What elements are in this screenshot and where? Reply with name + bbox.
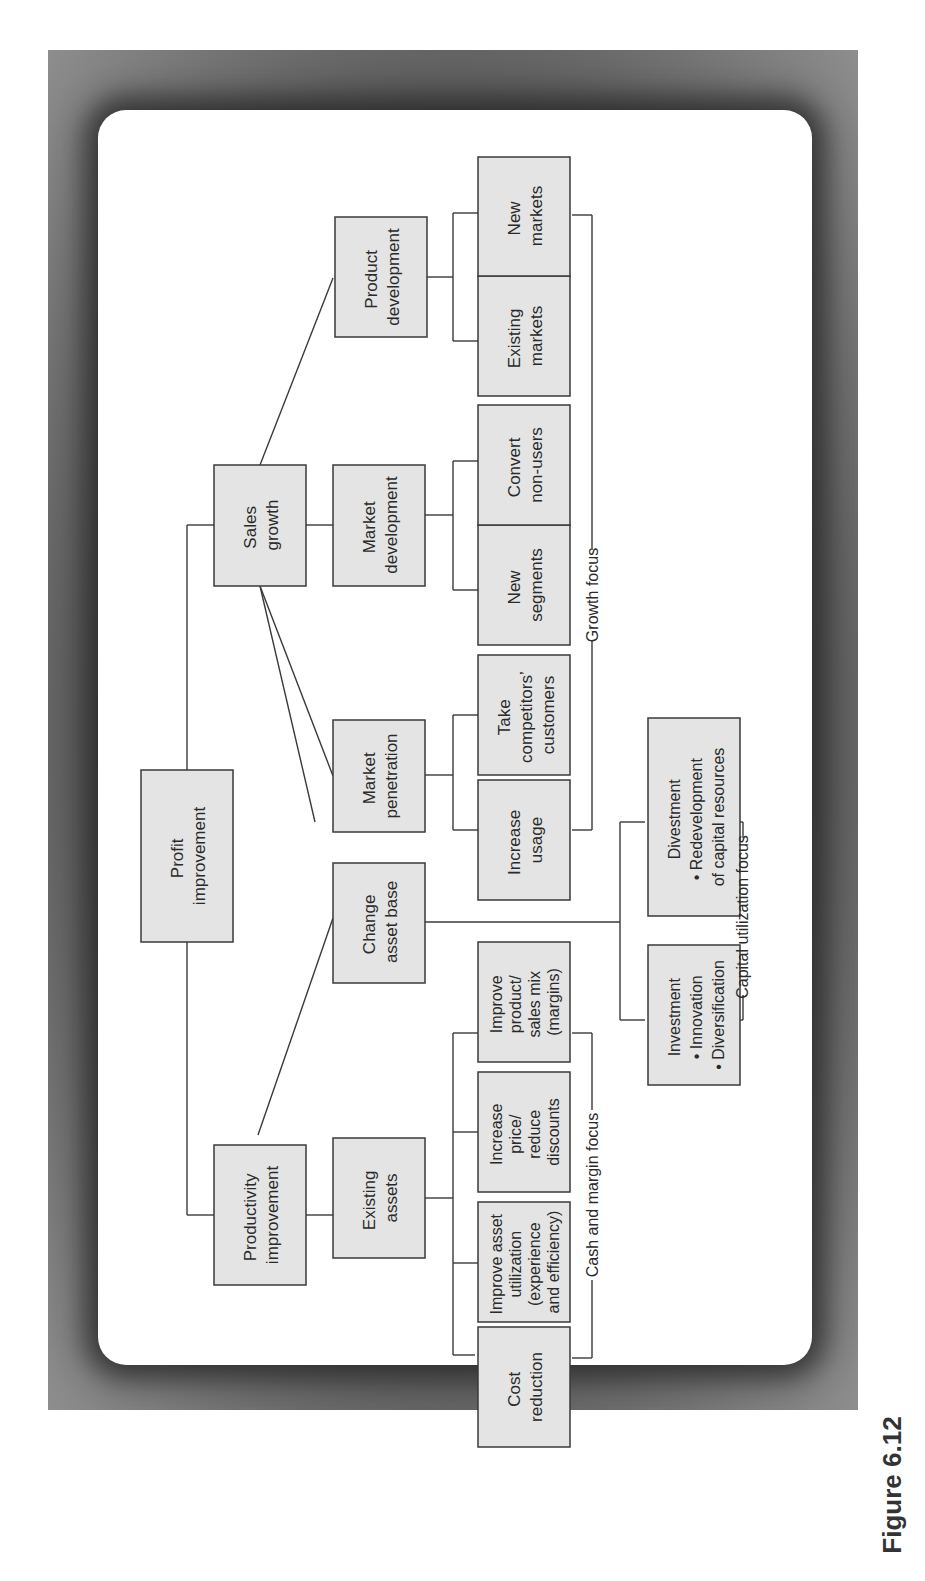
- node-cost-reduction: Cost reduction: [478, 1327, 570, 1447]
- node-label: reduce: [526, 1110, 543, 1159]
- svg-text:Investment • Innovation: Investment • Innovation • Diversificatio…: [666, 960, 727, 1070]
- node-label: Increase: [505, 810, 524, 875]
- figure-caption: Figure 6.12: [872, 1400, 912, 1570]
- node-label: product/: [507, 975, 524, 1033]
- node-productivity-improvement: Productivity improvement: [214, 1145, 306, 1285]
- node-label: discounts: [545, 1098, 562, 1166]
- node-label: customers: [539, 676, 558, 754]
- node-label: Convert: [505, 437, 524, 497]
- node-label: • Diversification: [710, 960, 727, 1070]
- node-increase-usage: Increase usage: [478, 780, 570, 900]
- node-label: Take: [495, 699, 514, 735]
- node-investment: Investment • Innovation • Diversificatio…: [648, 945, 740, 1085]
- node-label: growth: [263, 499, 282, 550]
- node-label: improvement: [190, 807, 209, 906]
- node-label: Product: [362, 250, 381, 309]
- node-label: New: [505, 570, 524, 605]
- node-label: Cost: [505, 1372, 524, 1407]
- node-label: Improve asset: [488, 1213, 505, 1314]
- node-label: Improve: [488, 975, 505, 1033]
- node-label: Investment: [666, 978, 683, 1057]
- node-label: (margins): [545, 968, 562, 1036]
- node-label: Divestment: [666, 779, 683, 860]
- node-label: competitors’: [517, 672, 536, 763]
- node-label: New: [505, 201, 524, 236]
- node-label: non-users: [527, 427, 546, 503]
- node-label: usage: [527, 817, 546, 863]
- node-take-competitors-customers: Take competitors’ customers: [478, 655, 570, 775]
- node-label: penetration: [382, 733, 401, 818]
- node-label: and efficiency): [545, 1211, 562, 1314]
- capital-utilization-focus-label: Capital utilization focus: [734, 835, 751, 999]
- node-label: development: [382, 476, 401, 574]
- node-label: reduction: [527, 1352, 546, 1422]
- node-label: Increase: [488, 1103, 505, 1164]
- node-label: utilization: [507, 1231, 524, 1298]
- node-sales-growth: Sales growth: [214, 465, 306, 586]
- node-label: Productivity: [241, 1173, 260, 1261]
- node-label: sales mix: [526, 971, 543, 1038]
- node-label: price/: [507, 1114, 524, 1154]
- figure-caption-text: Figure 6.12: [877, 1416, 908, 1553]
- node-label: assets: [382, 1173, 401, 1222]
- node-convert-non-users: Convert non-users: [478, 405, 570, 525]
- node-change-asset-base: Change asset base: [333, 863, 425, 983]
- node-existing-assets: Existing assets: [333, 1138, 425, 1258]
- node-market-development: Market development: [333, 465, 425, 586]
- node-new-markets: New markets: [478, 157, 570, 276]
- node-label: Existing: [360, 1171, 379, 1231]
- node-label: • Redevelopment: [688, 758, 705, 881]
- node-label: Change: [360, 895, 379, 955]
- node-increase-price: Increase price/ reduce discounts: [478, 1072, 570, 1192]
- node-label: Sales: [241, 506, 260, 549]
- node-label: (experience: [526, 1222, 543, 1306]
- node-label: • Innovation: [688, 975, 705, 1059]
- cash-margin-focus-label: Cash and margin focus: [584, 1113, 601, 1278]
- node-root: Profit improvement: [141, 770, 233, 942]
- node-label: segments: [527, 548, 546, 622]
- node-label: of capital resources: [710, 748, 727, 887]
- node-product-development: Product development: [335, 217, 427, 337]
- node-label: improvement: [263, 1166, 282, 1265]
- profit-improvement-tree: Profit improvement Productivity improvem…: [0, 0, 925, 1581]
- node-market-penetration: Market penetration: [333, 720, 425, 832]
- node-label: asset base: [382, 881, 401, 963]
- node-label: Market: [360, 501, 379, 553]
- node-divestment: Divestment • Redevelopment of capital re…: [648, 718, 740, 916]
- node-label: markets: [527, 306, 546, 366]
- node-existing-markets: Existing markets: [478, 276, 570, 396]
- node-improve-asset-utilization: Improve asset utilization (experience an…: [478, 1202, 570, 1322]
- node-label: Market: [360, 752, 379, 804]
- growth-focus-label: Growth focus: [584, 548, 601, 642]
- node-label: development: [384, 228, 403, 326]
- node-improve-product-mix: Improve product/ sales mix (margins): [478, 942, 570, 1062]
- node-label: markets: [527, 186, 546, 246]
- node-label: Profit: [168, 838, 187, 878]
- node-label: Existing: [505, 309, 524, 369]
- node-new-segments: New segments: [478, 525, 570, 645]
